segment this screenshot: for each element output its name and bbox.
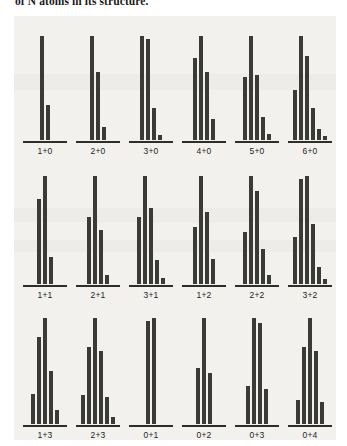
isotope-panel: 1+3 — [20, 302, 70, 440]
bar — [317, 267, 321, 283]
bar — [211, 119, 215, 140]
panel-baseline-axis — [129, 141, 173, 144]
isotope-panel: 0+3 — [232, 302, 282, 440]
bar — [93, 176, 97, 284]
isotope-panel: 0+1 — [126, 302, 176, 440]
bar — [243, 232, 247, 284]
bar — [205, 212, 209, 283]
bar — [49, 257, 53, 284]
bar — [111, 417, 115, 423]
panel-plot-area — [181, 176, 227, 284]
panel-label: 3+2 — [302, 290, 317, 300]
panel-baseline-axis — [182, 141, 226, 144]
bar — [249, 176, 253, 284]
bar — [55, 410, 59, 424]
bar — [99, 230, 103, 284]
isotope-pattern-figure: 1+02+03+04+05+06+0 1+12+13+11+22+23+2 1+… — [14, 16, 336, 440]
panel-plot-area — [75, 318, 121, 424]
bar — [87, 347, 91, 423]
panel-plot-area — [234, 318, 280, 424]
panel-baseline-axis — [288, 285, 332, 288]
bar — [299, 36, 303, 140]
isotope-panel: 2+1 — [73, 160, 123, 300]
panel-baseline-axis — [235, 425, 279, 428]
isotope-panel: 3+0 — [126, 20, 176, 156]
panel-baseline-axis — [182, 285, 226, 288]
isotope-panel: 3+1 — [126, 160, 176, 300]
bar — [193, 58, 197, 139]
panel-label: 1+1 — [37, 290, 52, 300]
panel-row-1: 1+02+03+04+05+06+0 — [14, 20, 336, 156]
bar — [323, 136, 327, 139]
bar — [105, 397, 109, 424]
bar — [267, 275, 271, 284]
bar — [37, 337, 41, 424]
panel-label: 4+0 — [196, 146, 211, 156]
bar — [323, 279, 327, 283]
panel-baseline-axis — [129, 285, 173, 288]
panel-label: 0+4 — [302, 430, 317, 440]
panel-plot-area — [22, 36, 68, 140]
caption-fragment: of N atoms in its structure. — [15, 0, 315, 9]
bar — [96, 72, 100, 140]
bar — [314, 351, 318, 423]
panel-label: 1+2 — [196, 290, 211, 300]
panel-label: 0+1 — [143, 430, 158, 440]
panel-label: 3+1 — [143, 290, 158, 300]
bar — [249, 36, 253, 140]
bar — [317, 129, 321, 139]
bar — [31, 394, 35, 424]
bar — [158, 135, 162, 139]
bar — [49, 371, 53, 424]
panel-label: 6+0 — [302, 146, 317, 156]
bar — [293, 90, 297, 140]
bar — [208, 373, 212, 424]
bar — [81, 395, 85, 424]
bar — [199, 36, 203, 140]
panel-baseline-axis — [76, 425, 120, 428]
bar — [46, 105, 50, 139]
panel-plot-area — [128, 318, 174, 424]
panel-label: 2+0 — [90, 146, 105, 156]
panel-baseline-axis — [76, 285, 120, 288]
bar — [137, 217, 141, 284]
panel-plot-area — [22, 176, 68, 284]
panel-label: 0+3 — [249, 430, 264, 440]
bar — [299, 179, 303, 284]
bar — [246, 386, 250, 423]
panel-plot-area — [75, 36, 121, 140]
panel-baseline-axis — [288, 425, 332, 428]
bar — [293, 237, 297, 283]
panel-baseline-axis — [129, 425, 173, 428]
isotope-panel: 1+1 — [20, 160, 70, 300]
panel-label: 2+2 — [249, 290, 264, 300]
panel-baseline-axis — [23, 425, 67, 428]
bar — [311, 108, 315, 139]
panel-baseline-axis — [23, 285, 67, 288]
isotope-panel: 2+2 — [232, 160, 282, 300]
bar — [267, 134, 271, 139]
bar — [205, 72, 209, 140]
bar — [105, 275, 109, 284]
panel-plot-area — [22, 318, 68, 424]
panel-plot-area — [128, 36, 174, 140]
panel-row-2: 1+12+13+11+22+23+2 — [14, 160, 336, 300]
isotope-panel: 1+0 — [20, 20, 70, 156]
bar — [296, 400, 300, 423]
panel-baseline-axis — [235, 285, 279, 288]
bar — [102, 127, 106, 139]
isotope-panel: 5+0 — [232, 20, 282, 156]
panel-plot-area — [234, 36, 280, 140]
bar — [305, 56, 309, 139]
isotope-panel: 6+0 — [285, 20, 335, 156]
panel-label: 2+3 — [90, 430, 105, 440]
panel-label: 0+2 — [196, 430, 211, 440]
bar — [311, 224, 315, 283]
panel-label: 1+3 — [37, 430, 52, 440]
bar — [261, 249, 265, 284]
panel-baseline-axis — [76, 141, 120, 144]
bar — [40, 36, 44, 140]
bar — [90, 36, 94, 140]
isotope-panel: 1+2 — [179, 160, 229, 300]
bar — [43, 318, 47, 424]
